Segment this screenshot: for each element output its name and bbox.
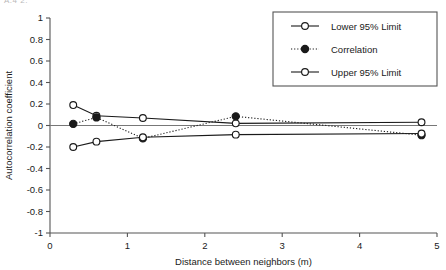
chart-figure: A.4 2. -1-0.8-0.6-0.4-0.200.20.40.60.81 … bbox=[0, 0, 446, 270]
y-tick-label: 1 bbox=[38, 12, 43, 23]
x-tick-label: 5 bbox=[434, 240, 439, 251]
x-axis-ticks: 012345 bbox=[47, 233, 439, 251]
series-line bbox=[73, 134, 421, 147]
legend-label: Lower 95% Limit bbox=[331, 21, 402, 32]
x-tick-label: 3 bbox=[280, 240, 285, 251]
chart-legend: Lower 95% LimitCorrelationUpper 95% Limi… bbox=[273, 12, 437, 86]
open-circle-marker bbox=[232, 131, 239, 138]
open-circle-marker bbox=[70, 102, 77, 109]
x-axis-title: Distance between neighbors (m) bbox=[175, 256, 312, 267]
series-line bbox=[73, 105, 421, 123]
y-tick-label: 0 bbox=[38, 120, 43, 131]
filled-circle-marker bbox=[301, 45, 308, 52]
y-axis-title: Autocorrelation coefficient bbox=[3, 71, 14, 180]
open-circle-marker bbox=[302, 23, 309, 30]
y-tick-label: -0.8 bbox=[27, 206, 43, 217]
open-circle-marker bbox=[93, 138, 100, 145]
y-tick-label: 0.8 bbox=[30, 34, 43, 45]
x-tick-label: 4 bbox=[357, 240, 362, 251]
open-circle-marker bbox=[418, 130, 425, 137]
open-circle-marker bbox=[302, 69, 309, 76]
open-circle-marker bbox=[418, 119, 425, 126]
y-tick-label: -1 bbox=[35, 227, 43, 238]
y-tick-label: -0.2 bbox=[27, 141, 43, 152]
filled-circle-marker bbox=[93, 114, 100, 121]
legend-label: Upper 95% Limit bbox=[331, 67, 402, 78]
open-circle-marker bbox=[70, 144, 77, 151]
open-circle-marker bbox=[139, 134, 146, 141]
y-tick-label: 0.6 bbox=[30, 55, 43, 66]
autocorrelation-chart: -1-0.8-0.6-0.4-0.200.20.40.60.81 012345 … bbox=[0, 0, 446, 270]
legend-label: Correlation bbox=[331, 44, 377, 55]
legend-item-correlation[interactable]: Correlation bbox=[291, 44, 377, 55]
series-lower-95-limit bbox=[70, 102, 425, 127]
open-circle-marker bbox=[139, 115, 146, 122]
x-tick-label: 2 bbox=[202, 240, 207, 251]
y-tick-label: 0.4 bbox=[30, 77, 43, 88]
filled-circle-marker bbox=[70, 120, 77, 127]
x-tick-label: 0 bbox=[47, 240, 52, 251]
x-tick-label: 1 bbox=[125, 240, 130, 251]
y-tick-label: 0.2 bbox=[30, 98, 43, 109]
y-axis-ticks: -1-0.8-0.6-0.4-0.200.20.40.60.81 bbox=[27, 12, 50, 238]
y-tick-label: -0.4 bbox=[27, 163, 43, 174]
open-circle-marker bbox=[232, 120, 239, 127]
y-tick-label: -0.6 bbox=[27, 184, 43, 195]
series-upper-95-limit bbox=[70, 130, 425, 150]
filled-circle-marker bbox=[232, 113, 239, 120]
